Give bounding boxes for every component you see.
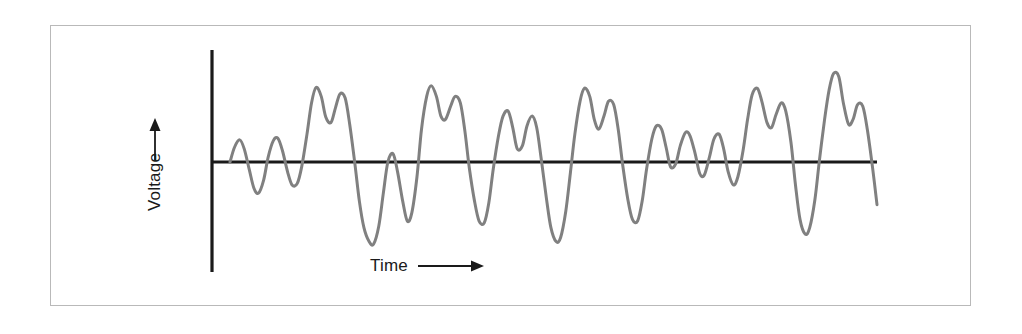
voltage-waveform-trace [230,72,877,245]
y-axis-label-text: Voltage [145,122,165,242]
x-axis-label: Time [370,255,484,277]
x-axis-arrow-icon [418,259,484,273]
x-axis-label-text: Time [370,256,408,276]
y-axis-label: Voltage [140,120,170,260]
waveform-figure: Voltage Time [0,0,1022,334]
